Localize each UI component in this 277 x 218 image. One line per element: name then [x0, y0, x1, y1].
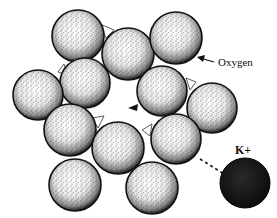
- oxygen-sphere: [126, 162, 178, 214]
- oxygen-sphere: [151, 114, 201, 164]
- potassium-ion: [220, 158, 270, 208]
- center-arrow-icon: [128, 104, 138, 111]
- potassium-ion-label: K+: [235, 143, 251, 158]
- oxygen-sphere: [44, 104, 96, 156]
- oxygen-sphere: [49, 159, 101, 211]
- ion-dashed-line: [200, 159, 224, 174]
- oxygen-sphere: [150, 12, 202, 64]
- oxygen-sphere: [137, 66, 187, 116]
- oxygen-sphere: [52, 10, 104, 62]
- oxygen-sphere: [92, 122, 144, 174]
- oxygen-pointer-arrow: [197, 55, 214, 62]
- oxygen-spheres: [13, 10, 237, 214]
- oxygen-label: Oxygen: [218, 56, 253, 68]
- crown-ether-diagram: [0, 0, 277, 218]
- oxygen-sphere: [60, 58, 110, 108]
